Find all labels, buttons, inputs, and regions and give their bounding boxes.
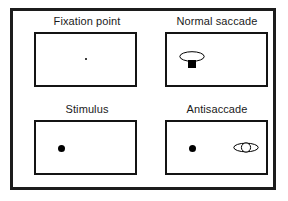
panel-label-normal-saccade: Normal saccade xyxy=(155,15,279,28)
figure-outer-frame: Fixation point Normal saccade xyxy=(10,8,276,190)
panel-normal-saccade: Normal saccade xyxy=(155,15,279,101)
target-dot-normal-saccade xyxy=(188,54,196,72)
panel-label-antisaccade: Antisaccade xyxy=(155,103,279,116)
panel-label-stimulus: Stimulus xyxy=(25,103,149,116)
stimulus-dot xyxy=(58,145,65,152)
panel-antisaccade: Antisaccade xyxy=(155,103,279,189)
figure-canvas: Fixation point Normal saccade xyxy=(0,0,288,201)
panel-label-fixation-point: Fixation point xyxy=(25,15,149,28)
panel-box-antisaccade xyxy=(165,120,268,175)
panel-box-fixation-point xyxy=(34,32,137,87)
panel-box-stimulus xyxy=(34,120,137,175)
panel-box-normal-saccade xyxy=(165,32,268,87)
panel-stimulus: Stimulus xyxy=(25,103,149,189)
stimulus-dot-antisaccade xyxy=(189,145,196,152)
panel-fixation-point: Fixation point xyxy=(25,15,149,101)
fixation-point-dot xyxy=(85,58,87,60)
eye-icon-antisaccade xyxy=(233,142,259,153)
